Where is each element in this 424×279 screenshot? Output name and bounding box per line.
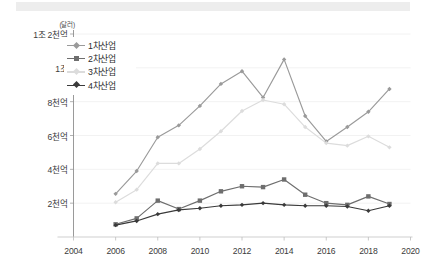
legend-item-2차산업[interactable]: 2차산업 xyxy=(64,52,136,65)
data-point-marker xyxy=(366,209,370,213)
data-point-marker xyxy=(219,189,223,193)
legend-item-label: 1차산업 xyxy=(86,39,116,52)
data-point-marker xyxy=(219,204,223,208)
data-point-marker xyxy=(303,204,307,208)
series-1차산업 xyxy=(113,57,391,196)
series-3차산업 xyxy=(113,98,391,205)
legend-item-label: 3차산업 xyxy=(86,65,116,78)
legend-item-1차산업[interactable]: 1차산업 xyxy=(64,39,136,52)
legend-marker-icon xyxy=(66,54,86,63)
data-point-marker xyxy=(282,177,286,181)
data-point-marker xyxy=(261,185,265,189)
series-2차산업 xyxy=(113,177,391,226)
data-point-marker xyxy=(156,212,160,216)
data-point-marker xyxy=(387,145,391,149)
legend-item-4차산업[interactable]: 4차산업 xyxy=(64,79,136,92)
chart-legend: 1차산업2차산업3차산업4차산업 xyxy=(64,37,136,95)
legend-marker-icon xyxy=(66,67,86,76)
legend-item-3차산업[interactable]: 3차산업 xyxy=(64,65,136,78)
data-point-marker xyxy=(261,201,265,205)
data-point-marker xyxy=(198,198,202,202)
data-point-marker xyxy=(156,198,160,202)
legend-item-label: 2차산업 xyxy=(86,52,116,65)
data-point-marker xyxy=(198,206,202,210)
data-point-marker xyxy=(345,143,349,147)
legend-marker-icon xyxy=(66,41,86,50)
line-chart: (달러) 1조 2천억1조8천억6천억4천억2천억 20042006200820… xyxy=(0,0,424,279)
data-point-marker xyxy=(282,57,286,61)
data-point-marker xyxy=(366,134,370,138)
legend-marker-icon xyxy=(66,81,86,90)
data-point-marker xyxy=(366,194,370,198)
data-point-marker xyxy=(240,184,244,188)
data-point-marker xyxy=(303,193,307,197)
legend-item-label: 4차산업 xyxy=(86,79,116,92)
series-4차산업 xyxy=(113,201,391,227)
